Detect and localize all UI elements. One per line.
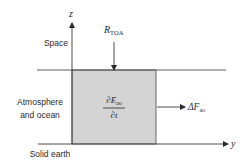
y-axis-label: y — [230, 138, 236, 149]
atmosphere-ocean-box — [72, 70, 156, 144]
solid-earth-label: Solid earth — [30, 149, 71, 159]
toa-radiation-label: RTOA — [103, 24, 124, 36]
storage-numerator-subscript: ao — [116, 100, 122, 106]
z-axis-label: z — [68, 8, 73, 19]
atmosphere-label-line2: and ocean — [20, 110, 60, 120]
toa-subscript: TOA — [110, 29, 124, 36]
space-label: Space — [44, 38, 68, 48]
transport-subscript: ao — [199, 107, 205, 113]
transport-symbol: ΔF — [187, 102, 200, 112]
atmosphere-label-line1: Atmosphere — [17, 97, 63, 107]
energy-budget-diagram: z y Space Atmosphere and ocean Solid ear… — [0, 0, 246, 166]
storage-denominator: ∂t — [111, 110, 118, 120]
storage-numerator-symbol: ∂E — [106, 95, 116, 105]
toa-symbol: R — [103, 24, 110, 35]
transport-flux-label: ΔFao — [187, 102, 205, 113]
